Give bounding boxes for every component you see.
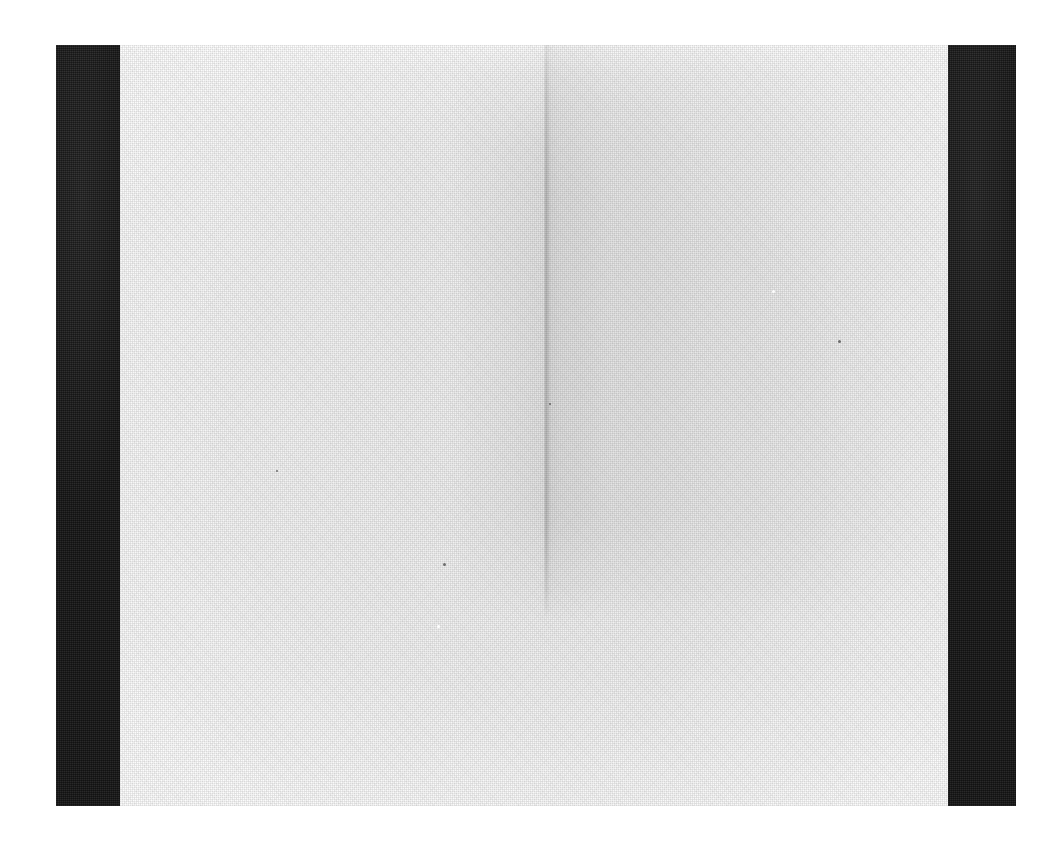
- scanned-paper-sheet: [120, 45, 948, 806]
- speck-dark-lower-left: [276, 470, 278, 472]
- right-black-bar: [948, 45, 1016, 806]
- paper-vertical-tone: [120, 45, 948, 806]
- paper-vignette: [120, 45, 948, 806]
- scan-canvas: Scan of a blank light-grey sheet flanked…: [0, 0, 1062, 849]
- paper-grain-coarse: [120, 45, 948, 806]
- image-caption: Scan of a blank light-grey sheet flanked…: [0, 0, 1, 1]
- speck-dark-mid-left: [443, 563, 446, 566]
- crease-soft-shadow: [450, 45, 550, 620]
- speck-light-mid-left: [437, 625, 440, 628]
- speck-dark-crease: [549, 403, 551, 405]
- fold-crease-line: [543, 45, 548, 620]
- paper-horizontal-tone: [120, 45, 948, 806]
- speck-light-upper-right: [772, 290, 775, 293]
- left-black-bar: [56, 45, 120, 806]
- crease-shadow-panel: [545, 45, 948, 620]
- paper-grain-fine: [120, 45, 948, 806]
- speck-dark-upper-right: [838, 340, 841, 343]
